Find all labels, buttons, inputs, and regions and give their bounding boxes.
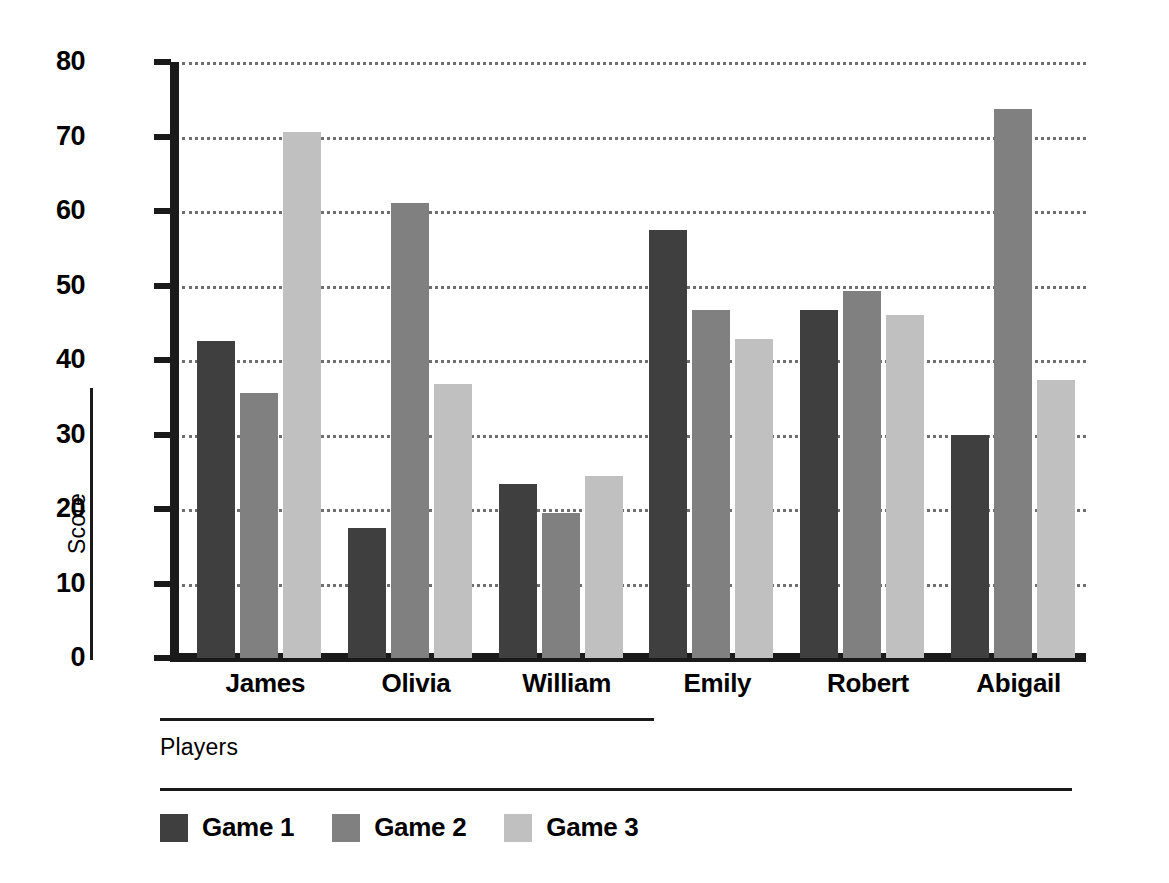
legend-swatch-icon bbox=[504, 814, 532, 842]
y-tick-mark bbox=[154, 506, 171, 512]
legend: Game 1Game 2Game 3 bbox=[160, 812, 676, 843]
y-tick-label: 80 bbox=[15, 48, 85, 75]
y-tick-mark bbox=[154, 357, 171, 363]
y-tick-mark bbox=[154, 59, 171, 65]
bar-group bbox=[649, 62, 773, 658]
legend-rule bbox=[160, 788, 1072, 791]
bar[interactable] bbox=[692, 310, 730, 658]
bar[interactable] bbox=[735, 339, 773, 658]
y-tick-mark bbox=[154, 655, 171, 661]
y-tick-label: 20 bbox=[15, 495, 85, 522]
bar[interactable] bbox=[585, 476, 623, 658]
plot-area bbox=[176, 62, 1086, 658]
bar[interactable] bbox=[283, 132, 321, 658]
legend-label: Game 3 bbox=[546, 812, 638, 843]
bar[interactable] bbox=[240, 393, 278, 658]
bar-group bbox=[197, 62, 321, 658]
bar[interactable] bbox=[391, 203, 429, 658]
x-axis-title-text: Players bbox=[160, 734, 238, 761]
legend-swatch-icon bbox=[160, 814, 188, 842]
bar-group bbox=[951, 62, 1075, 658]
bar[interactable] bbox=[886, 315, 924, 658]
bar-group bbox=[800, 62, 924, 658]
y-tick-mark bbox=[154, 208, 171, 214]
bar-group bbox=[348, 62, 472, 658]
y-axis-title-rule bbox=[90, 388, 93, 660]
bar[interactable] bbox=[197, 341, 235, 658]
legend-swatch-icon bbox=[332, 814, 360, 842]
x-axis-title-rule bbox=[160, 718, 654, 721]
bar[interactable] bbox=[843, 291, 881, 658]
legend-item[interactable]: Game 2 bbox=[332, 812, 466, 843]
bar[interactable] bbox=[542, 513, 580, 658]
y-tick-mark bbox=[154, 134, 171, 140]
bar[interactable] bbox=[499, 484, 537, 658]
y-tick-label: 50 bbox=[15, 272, 85, 299]
bar[interactable] bbox=[800, 310, 838, 658]
bar[interactable] bbox=[1037, 380, 1075, 658]
legend-item[interactable]: Game 3 bbox=[504, 812, 638, 843]
y-tick-mark bbox=[154, 283, 171, 289]
bar[interactable] bbox=[348, 528, 386, 658]
y-tick-mark bbox=[154, 581, 171, 587]
y-tick-mark bbox=[154, 432, 171, 438]
bar[interactable] bbox=[649, 230, 687, 658]
y-tick-label: 30 bbox=[15, 421, 85, 448]
bar[interactable] bbox=[994, 109, 1032, 658]
x-category-label: Abigail bbox=[919, 668, 1119, 699]
bar-chart: Score 01020304050607080 JamesOliviaWilli… bbox=[0, 0, 1169, 883]
bar[interactable] bbox=[434, 384, 472, 658]
y-tick-label: 10 bbox=[15, 570, 85, 597]
y-tick-label: 60 bbox=[15, 197, 85, 224]
y-tick-label: 0 bbox=[15, 644, 85, 671]
y-tick-label: 40 bbox=[15, 346, 85, 373]
y-tick-label: 70 bbox=[15, 123, 85, 150]
bar[interactable] bbox=[951, 435, 989, 659]
legend-label: Game 2 bbox=[374, 812, 466, 843]
bar-group bbox=[499, 62, 623, 658]
legend-item[interactable]: Game 1 bbox=[160, 812, 294, 843]
legend-label: Game 1 bbox=[202, 812, 294, 843]
